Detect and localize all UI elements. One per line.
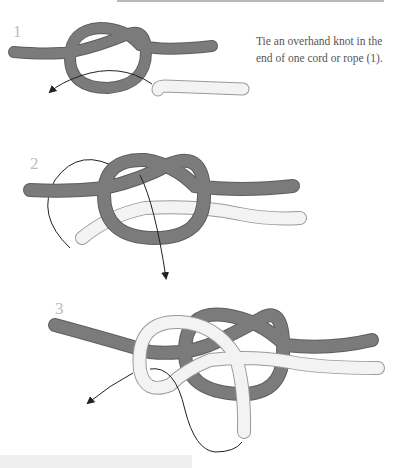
step-2-illustration: [30, 160, 300, 278]
step-3-illustration: [55, 314, 378, 452]
arrow-icon: [140, 175, 166, 278]
light-rope: [158, 86, 243, 90]
step-1-illustration: [14, 28, 243, 92]
knot-diagram: [0, 0, 393, 468]
dark-rope: [30, 160, 293, 238]
arrow-icon: [88, 373, 133, 403]
dark-rope: [14, 28, 212, 88]
